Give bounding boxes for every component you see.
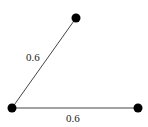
node-top: [72, 14, 81, 23]
edge-label-horizontal: 0.6: [66, 112, 80, 124]
edge-label-diagonal: 0.6: [26, 51, 40, 63]
edge-bottom-left-top: [12, 18, 76, 108]
node-bottom-left: [8, 104, 17, 113]
graph-diagram: 0.6 0.6: [0, 0, 148, 127]
node-bottom-right: [134, 104, 143, 113]
